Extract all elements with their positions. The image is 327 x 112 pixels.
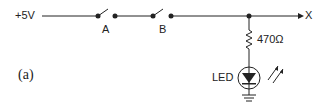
output-label: X	[305, 9, 312, 21]
arrow-icon	[298, 13, 304, 19]
circuit-diagram	[0, 0, 327, 112]
led-label: LED	[212, 71, 233, 83]
figure-label: (a)	[18, 67, 34, 83]
switch-a-label: A	[102, 23, 109, 35]
supply-label: +5V	[15, 9, 35, 21]
resistor-label: 470Ω	[257, 33, 284, 45]
resistor-icon	[246, 30, 252, 49]
switch-b-label: B	[159, 23, 166, 35]
